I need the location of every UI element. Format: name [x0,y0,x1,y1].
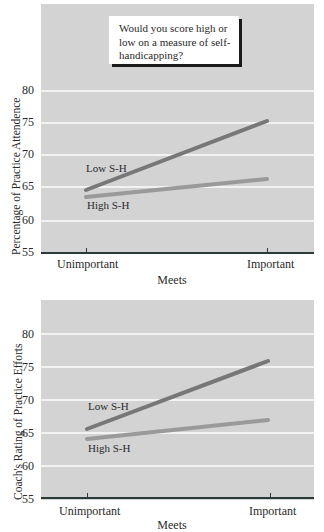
x-label-unimportant: Unimportant [59,504,120,519]
x-label-important: Important [249,504,296,519]
x-axis-label: Meets [0,518,324,532]
low-sh-line [87,361,268,429]
low-sh-label: Low S-H [88,400,129,412]
y-axis-label: Coach's Rating of Practice Efforts [12,344,24,500]
high-sh-label: High S-H [88,442,130,454]
series-lines [0,0,324,532]
high-sh-line [87,420,268,439]
y-tick-80: 80 [10,327,34,342]
effort-chart: Low S-H High S-H 80 75 70 65 60 55 Coach… [0,0,324,532]
